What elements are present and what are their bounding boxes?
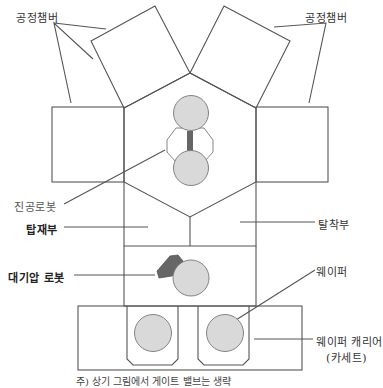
atmospheric-robot: [157, 255, 209, 296]
leader-process-chamber-left-2: [54, 23, 106, 29]
process-chamber-top-left: [91, 6, 190, 108]
label-wafer-carrier: 웨이퍼 캐리어: [316, 333, 383, 349]
leader-process-chamber-right: [274, 23, 326, 103]
process-chamber-right: [256, 107, 328, 182]
vacuum-robot: [167, 96, 213, 186]
vacuum-robot-arm: [187, 131, 193, 153]
label-atmospheric-robot: 대기압 로봇: [8, 269, 65, 285]
label-wafer-carrier-sub: (카세트): [326, 349, 367, 365]
wafer-cassette-right: [207, 315, 244, 352]
wafer-atmospheric: [173, 260, 209, 296]
label-process-chamber-right: 공정챔버: [305, 9, 347, 25]
label-unload-section: 탈착부: [318, 216, 350, 232]
process-chamber-top-right: [190, 6, 290, 108]
label-vacuum-robot: 진공로봇: [14, 198, 56, 214]
label-process-chamber-left: 공정챔버: [16, 9, 58, 25]
wafer-carrier-block: [78, 306, 302, 370]
wafer-cassette-left: [135, 315, 172, 352]
label-load-section: 탑재부: [26, 221, 58, 237]
label-wafer: 웨이퍼: [316, 263, 348, 279]
leader-process-chamber-left: [54, 23, 93, 103]
wafer-vacuum-lower: [174, 151, 209, 186]
footnote: 주) 상기 그림에서 게이트 밸브는 생략: [76, 373, 231, 388]
process-chamber-left: [52, 107, 124, 182]
wafer-vacuum-upper: [174, 96, 209, 131]
